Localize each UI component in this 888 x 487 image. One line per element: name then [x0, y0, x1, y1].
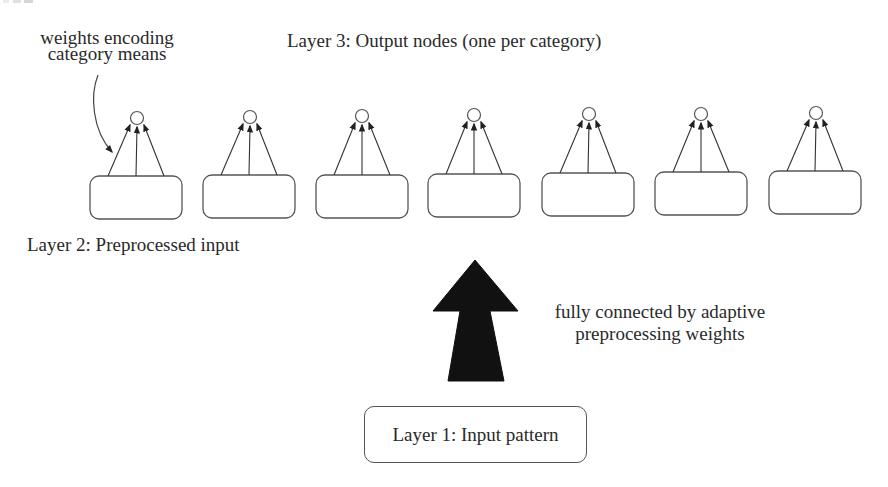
- annotation-connection-line2: preprocessing weights: [535, 324, 785, 344]
- weight-arrow: [588, 123, 589, 173]
- output-node: [131, 112, 144, 125]
- category-unit: [316, 110, 408, 219]
- weight-arrow: [446, 122, 467, 174]
- weight-arrow: [136, 127, 137, 176]
- weight-arrow: [708, 121, 729, 172]
- fully-connected-big-arrow: [433, 260, 518, 381]
- layer3-label: Layer 3: Output nodes (one per category): [287, 31, 601, 51]
- output-node: [583, 108, 596, 121]
- weight-arrow: [221, 124, 243, 175]
- category-unit: [769, 107, 861, 215]
- output-node: [695, 108, 708, 121]
- category-unit: [90, 112, 182, 220]
- layer2-label: Layer 2: Preprocessed input: [27, 235, 240, 255]
- category-unit: [655, 108, 747, 216]
- preprocessed-input-box: [428, 174, 520, 217]
- annotation-connection-line1: fully connected by adaptive: [535, 302, 785, 322]
- weight-arrow: [257, 124, 277, 175]
- output-node: [810, 107, 823, 120]
- layer1-label: Layer 1: Input pattern: [392, 424, 558, 446]
- weight-arrow: [249, 126, 250, 175]
- output-node: [244, 111, 257, 124]
- annotation-pointer-arrow: [94, 75, 112, 152]
- preprocessed-input-box: [203, 175, 295, 218]
- weight-arrow: [144, 125, 164, 176]
- preprocessed-input-box: [316, 175, 408, 218]
- category-unit: [542, 108, 634, 217]
- weight-arrow: [596, 121, 616, 173]
- weight-arrow: [673, 121, 694, 172]
- preprocessed-input-box: [90, 176, 182, 219]
- weight-arrow: [560, 121, 582, 173]
- weight-arrow: [369, 123, 390, 175]
- output-node: [356, 110, 369, 123]
- annotation-weights-line2: category means: [29, 44, 185, 64]
- preprocessed-input-box: [769, 171, 861, 214]
- category-units: [90, 107, 861, 220]
- layer1-input-pattern-box: Layer 1: Input pattern: [364, 406, 587, 463]
- weight-arrow: [823, 120, 843, 171]
- preprocessed-input-box: [655, 172, 747, 215]
- weight-arrow: [815, 122, 816, 171]
- weight-arrow: [334, 123, 355, 175]
- weight-arrow: [787, 120, 809, 171]
- category-unit: [203, 111, 295, 219]
- weight-arrow: [481, 122, 502, 174]
- preprocessed-input-box: [542, 173, 634, 216]
- category-unit: [428, 109, 520, 218]
- output-node: [468, 109, 481, 122]
